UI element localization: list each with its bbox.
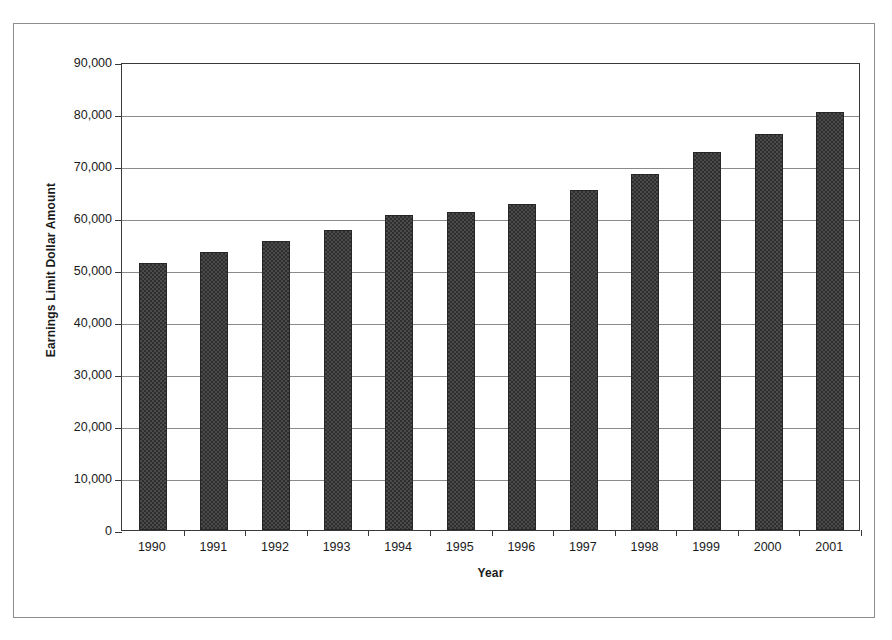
x-axis-tick-label: 1995 [429,540,491,554]
x-axis-tick [368,530,369,536]
y-axis-tick [115,428,122,429]
x-axis-tick [799,530,800,536]
bar [324,230,352,530]
y-axis-tick-label: 0 [22,524,112,538]
x-axis-tick [245,530,246,536]
x-axis-tick-label: 1992 [244,540,306,554]
x-axis-title: Year [121,566,860,580]
bar [200,252,228,530]
y-axis-tick-label: 90,000 [22,56,112,70]
gridline [122,272,859,273]
x-axis-tick-label: 1991 [182,540,244,554]
plot-area [121,63,860,531]
gridline [122,428,859,429]
y-axis-tick-label: 30,000 [22,368,112,382]
chart-page: Earnings Limit Dollar Amount 010,00020,0… [0,0,892,640]
x-axis-tick-label: 1998 [613,540,675,554]
x-axis-tick-label: 2000 [737,540,799,554]
y-axis-tick [115,272,122,273]
bar [508,204,536,530]
gridline [122,220,859,221]
x-axis-tick [307,530,308,536]
y-axis-tick [115,324,122,325]
gridline [122,376,859,377]
y-axis-tick-label: 80,000 [22,108,112,122]
bar [139,263,167,530]
x-axis-tick-label: 1999 [675,540,737,554]
x-axis-tick-label: 1993 [306,540,368,554]
x-axis-tick-label: 1996 [490,540,552,554]
x-axis-tick [553,530,554,536]
y-axis-tick [115,220,122,221]
y-axis-tick-label: 10,000 [22,472,112,486]
y-axis-tick-label: 40,000 [22,316,112,330]
x-axis-tick [676,530,677,536]
y-axis-tick [115,376,122,377]
y-axis-tick-label: 70,000 [22,160,112,174]
x-axis-tick [430,530,431,536]
bar [447,212,475,530]
y-axis-tick-label: 20,000 [22,420,112,434]
x-axis-tick-label: 1990 [121,540,183,554]
bar [816,112,844,530]
x-axis-tick-label: 2001 [798,540,860,554]
gridline [122,480,859,481]
y-axis-tick [115,532,122,533]
y-axis-tick [115,480,122,481]
x-axis-tick-label: 1997 [552,540,614,554]
y-axis-tick-label: 60,000 [22,212,112,226]
y-axis-tick-labels: 010,00020,00030,00040,00050,00060,00070,… [14,63,112,531]
x-axis-tick-labels: 1990199119921993199419951996199719981999… [121,540,860,560]
y-axis-tick-label: 50,000 [22,264,112,278]
y-axis-tick [115,64,122,65]
bar [631,174,659,530]
bar [385,215,413,530]
x-axis-tick [615,530,616,536]
bar [693,152,721,530]
gridline [122,116,859,117]
x-axis-tick-label: 1994 [367,540,429,554]
gridline [122,324,859,325]
x-axis-tick [492,530,493,536]
x-axis-tick [738,530,739,536]
bar [262,241,290,530]
y-axis-tick [115,116,122,117]
gridline [122,168,859,169]
x-axis-tick [184,530,185,536]
bar [570,190,598,530]
x-axis-tick [861,530,862,536]
bar [755,134,783,530]
y-axis-tick [115,168,122,169]
